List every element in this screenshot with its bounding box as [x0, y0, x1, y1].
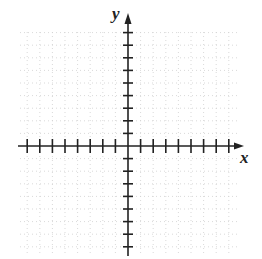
y-axis-label: y [112, 4, 120, 24]
y-axis-arrow-icon [125, 13, 132, 24]
x-axis-label: x [240, 148, 249, 168]
coordinate-plane [0, 0, 262, 259]
axes [18, 13, 244, 256]
